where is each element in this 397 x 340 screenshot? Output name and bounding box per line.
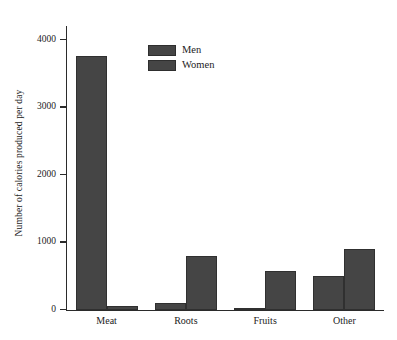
y-axis-tick bbox=[60, 39, 67, 40]
bar-chart: Number of calories produced per day 0100… bbox=[0, 0, 397, 340]
y-axis-tick-label: 3000 bbox=[0, 102, 56, 112]
bar-fruits-men bbox=[234, 308, 265, 310]
y-axis-tick-label: 2000 bbox=[0, 170, 56, 180]
y-axis-tick bbox=[60, 106, 67, 107]
y-axis-title: Number of calories produced per day bbox=[14, 13, 28, 313]
bar-meat-men bbox=[76, 56, 107, 309]
y-axis-tick bbox=[60, 309, 67, 310]
legend-item-women: Women bbox=[148, 59, 214, 71]
y-axis-line bbox=[66, 26, 67, 311]
legend-label-women: Women bbox=[182, 60, 214, 71]
x-axis-label-fruits: Fruits bbox=[226, 315, 305, 326]
bar-roots-women bbox=[186, 256, 217, 310]
bar-meat-women bbox=[107, 306, 138, 309]
y-axis-tick bbox=[60, 241, 67, 242]
x-axis-label-other: Other bbox=[305, 315, 384, 326]
bar-fruits-women bbox=[265, 271, 296, 309]
legend-label-men: Men bbox=[182, 45, 201, 56]
x-axis-label-roots: Roots bbox=[146, 315, 225, 326]
bar-other-women bbox=[344, 249, 375, 310]
y-axis-tick bbox=[60, 174, 67, 175]
y-axis-tick-label: 0 bbox=[0, 305, 56, 315]
legend-item-men: Men bbox=[148, 44, 214, 56]
x-axis-label-meat: Meat bbox=[67, 315, 146, 326]
legend-swatch-men bbox=[148, 45, 176, 56]
x-axis-line bbox=[66, 310, 384, 311]
bar-roots-men bbox=[155, 303, 186, 310]
y-axis-tick-label: 1000 bbox=[0, 237, 56, 247]
y-axis-tick-label: 4000 bbox=[0, 35, 56, 45]
legend: MenWomen bbox=[148, 44, 214, 71]
bar-other-men bbox=[313, 276, 344, 310]
legend-swatch-women bbox=[148, 60, 176, 71]
